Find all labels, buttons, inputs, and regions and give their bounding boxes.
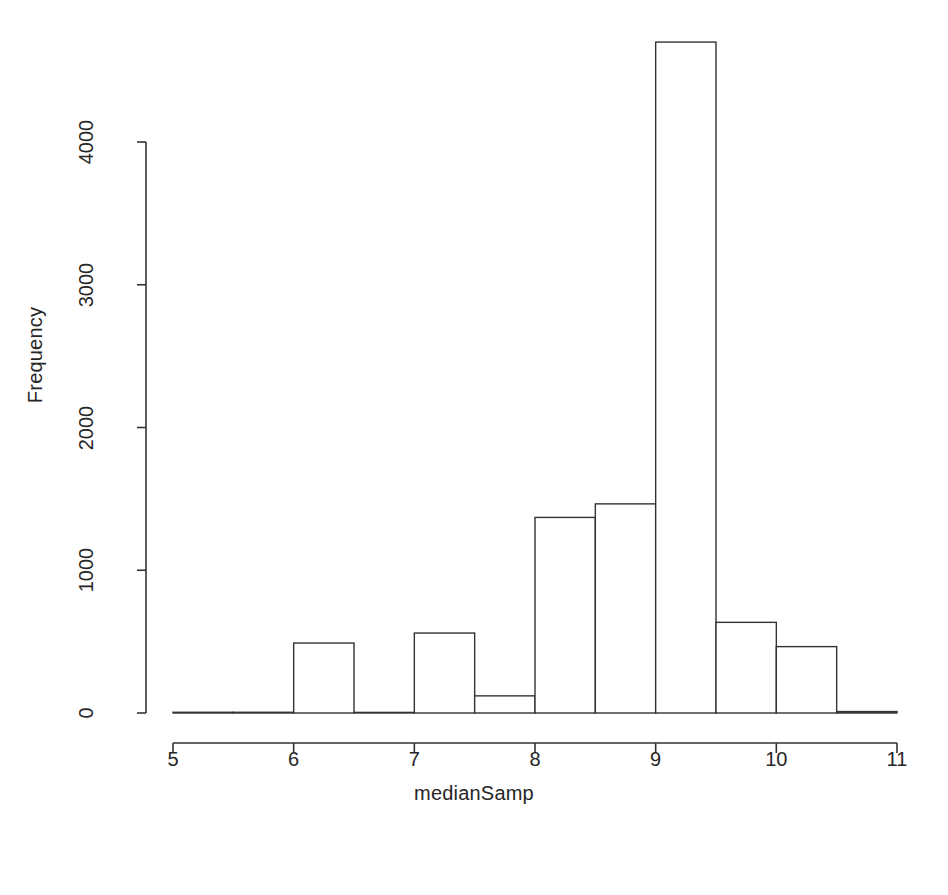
y-tick-label: 3000	[75, 263, 98, 308]
x-tick-label: 8	[529, 748, 540, 771]
histogram-bar	[595, 504, 655, 713]
histogram-bar	[233, 712, 293, 713]
histogram-bar	[535, 517, 595, 713]
histogram-bar	[475, 696, 535, 713]
histogram-bar	[716, 622, 776, 713]
x-tick-label: 10	[765, 748, 787, 771]
figure-histogram: Frequency medianSamp 567891011 010002000…	[0, 0, 948, 895]
x-axis-title: medianSamp	[0, 782, 948, 805]
histogram-svg	[0, 0, 948, 830]
histogram-bar	[776, 647, 836, 713]
y-tick-label: 0	[75, 707, 98, 718]
histogram-bar	[837, 712, 897, 713]
histogram-bar	[173, 712, 233, 713]
x-tick-label: 7	[409, 748, 420, 771]
y-tick-label: 4000	[75, 120, 98, 165]
histogram-bar	[414, 633, 474, 713]
histogram-bar	[354, 712, 414, 713]
histogram-bars	[173, 42, 897, 713]
figure-caption	[0, 872, 948, 895]
y-tick-label: 2000	[75, 405, 98, 450]
x-tick-label: 11	[887, 748, 908, 771]
histogram-bar	[294, 643, 354, 713]
x-tick-label: 6	[288, 748, 299, 771]
y-axis-title: Frequency	[24, 307, 47, 403]
y-tick-label: 1000	[75, 548, 98, 593]
plot-area	[0, 0, 948, 830]
histogram-bar	[656, 42, 716, 713]
x-tick-label: 9	[650, 748, 661, 771]
x-tick-label: 5	[167, 748, 178, 771]
